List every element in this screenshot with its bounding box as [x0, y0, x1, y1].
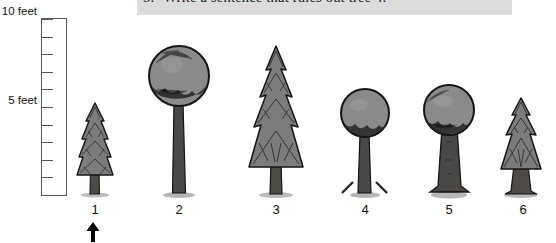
ruler-tick — [42, 37, 53, 38]
question-body: Write a sentence that rules out tree 4. — [163, 0, 386, 5]
tree-2[interactable] — [148, 41, 210, 199]
tree-6-label: 6 — [508, 202, 538, 217]
tree-3-label: 3 — [261, 202, 291, 217]
tree-4-illustration — [338, 86, 392, 199]
tree-3-illustration — [245, 43, 307, 199]
ruler-tick — [42, 142, 53, 143]
ruler-tick — [42, 19, 53, 20]
tree-2-label: 2 — [164, 202, 194, 217]
tree-4-label: 4 — [350, 202, 380, 217]
question-number: 5. — [143, 0, 154, 5]
tree-5-label: 5 — [434, 202, 464, 217]
scale-label-mid: 5 feet — [1, 94, 37, 106]
tree-3[interactable] — [245, 43, 307, 199]
tree-1[interactable] — [74, 99, 116, 199]
ruler-tick — [42, 107, 53, 108]
tree-2-illustration — [148, 41, 210, 199]
up-arrow-icon — [85, 222, 101, 242]
tree-5[interactable] — [420, 82, 478, 199]
question-text: 5.Write a sentence that rules out tree 4… — [143, 0, 386, 6]
tree-5-illustration — [420, 82, 478, 199]
worksheet-page: 5.Write a sentence that rules out tree 4… — [0, 0, 556, 243]
ruler-tick — [42, 160, 53, 161]
ruler-tick — [42, 89, 53, 90]
height-scale-ruler — [41, 18, 67, 196]
question-banner: 5.Write a sentence that rules out tree 4… — [137, 0, 512, 15]
ruler-tick — [42, 177, 53, 178]
ruler-tick — [42, 72, 53, 73]
scale-label-top: 10 feet — [1, 5, 37, 17]
ruler-tick — [42, 54, 53, 55]
ruler-tick — [42, 125, 53, 126]
tree-4[interactable] — [338, 86, 392, 199]
tree-6[interactable] — [495, 95, 547, 199]
tree-1-illustration — [74, 99, 116, 199]
tree-1-label: 1 — [80, 202, 110, 217]
tree-6-illustration — [495, 95, 547, 199]
